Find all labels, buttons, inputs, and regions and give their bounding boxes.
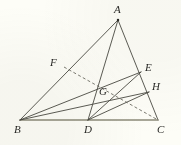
point-label-H: H [152,81,160,92]
side-AC [118,20,158,120]
point-label-B: B [14,124,21,135]
geometry-figure: A B C D E F G H [0,0,181,145]
segment-DH [88,92,149,120]
point-label-A: A [114,4,121,15]
vertex-marker-A [117,19,120,22]
segment-DE [88,72,141,120]
point-label-C: C [157,124,164,135]
point-label-F: F [50,57,57,68]
point-label-G: G [99,86,107,97]
cevian-BH [20,92,149,120]
cevian-BE [20,72,141,120]
point-label-D: D [84,124,92,135]
point-label-E: E [145,62,152,73]
